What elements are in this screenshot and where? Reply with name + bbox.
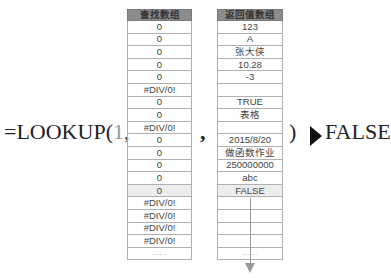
return-array-cell: A — [217, 34, 283, 47]
return-array-cell: 250000000 — [217, 160, 283, 173]
return-array-cell: 做函数作业 — [217, 147, 283, 160]
return-array-cell: abc — [217, 172, 283, 185]
lookup-array-cell: 0 — [127, 134, 192, 147]
lookup-array-cell: 0 — [127, 34, 192, 47]
search-direction-line — [250, 198, 251, 264]
lookup-array-cell: 0 — [127, 172, 192, 185]
lookup-array-cell: 0 — [127, 46, 192, 59]
lookup-array-header: 查找数组 — [127, 9, 192, 21]
formula-lookup-value: 1 — [113, 119, 124, 144]
lookup-array-table: 查找数组 00000#DIV/0!00#DIV/0!00000#DIV/0!#D… — [127, 9, 192, 260]
lookup-array-cell: #DIV/0! — [127, 235, 192, 248]
lookup-array-cell: #DIV/0! — [127, 210, 192, 223]
result-arrow-icon — [310, 126, 322, 146]
lookup-array-cell: 0 — [127, 97, 192, 110]
return-array-cell: 表格 — [217, 109, 283, 122]
lookup-array-cell: #DIV/0! — [127, 197, 192, 210]
lookup-array-cell: 0 — [127, 109, 192, 122]
return-array-cell — [217, 84, 283, 97]
return-array-cell: 张大侠 — [217, 46, 283, 59]
lookup-array-cell: 0 — [127, 21, 192, 34]
lookup-array-cell: 0 — [127, 71, 192, 84]
formula-close-paren: ) — [289, 119, 296, 145]
formula-function: =LOOKUP( — [4, 119, 113, 144]
lookup-array-cell: #DIV/0! — [127, 122, 192, 135]
lookup-array-cell: 0 — [127, 147, 192, 160]
return-array-cell: TRUE — [217, 97, 283, 110]
return-array-cell: 123 — [217, 21, 283, 34]
return-array-cell: 10.28 — [217, 59, 283, 72]
return-array-header: 返回值数组 — [217, 9, 283, 21]
arrow-down-icon — [245, 263, 255, 273]
lookup-array-cell: 0 — [127, 185, 192, 198]
formula-prefix: =LOOKUP(1, — [4, 119, 129, 145]
lookup-array-cell: 0 — [127, 59, 192, 72]
return-array-cell — [217, 122, 283, 135]
formula-comma-separator: , — [200, 119, 206, 145]
return-array-cell: 2015/8/20 — [217, 134, 283, 147]
lookup-array-cell: 0 — [127, 160, 192, 173]
lookup-array-cell: #DIV/0! — [127, 223, 192, 236]
lookup-array-cell: ...... — [127, 248, 192, 261]
return-array-cell: FALSE — [217, 185, 283, 198]
formula-result: FALSE — [325, 119, 391, 145]
return-array-cell: -3 — [217, 71, 283, 84]
lookup-array-cell: #DIV/0! — [127, 84, 192, 97]
